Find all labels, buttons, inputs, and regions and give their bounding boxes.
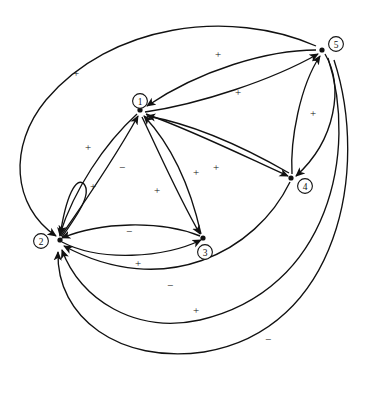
edge-sign: + <box>213 161 219 173</box>
edge-sign: − <box>265 333 271 345</box>
edge-signs-group: + + + + + − + + + + − + − + − <box>73 48 316 345</box>
edge-sign: − <box>126 225 132 237</box>
edge-sign: + <box>215 48 221 60</box>
edge-2-3 <box>62 240 201 255</box>
edge-1-5 <box>145 54 318 112</box>
node-junction-5 <box>319 47 324 52</box>
edge-sign: + <box>193 166 199 178</box>
node-label-2[interactable]: 2 <box>34 234 49 249</box>
edge-sign: + <box>73 67 79 79</box>
edge-2-1 <box>61 116 138 236</box>
edge-sign: + <box>193 304 199 316</box>
edge-2-self-loop <box>60 182 86 237</box>
edge-1-2 <box>60 114 137 234</box>
edge-4-2-lower <box>64 182 290 269</box>
node-junction-4 <box>288 175 293 180</box>
node-label-3[interactable]: 3 <box>198 245 213 260</box>
edge-5-1 <box>147 50 316 106</box>
edge-sign: + <box>135 257 141 269</box>
node-label-2-text: 2 <box>39 237 44 247</box>
signed-digraph: 1 2 3 4 5 + + + + + − <box>0 0 368 406</box>
edge-sign: − <box>167 279 173 291</box>
edge-sign: + <box>85 141 91 153</box>
node-label-5[interactable]: 5 <box>329 37 344 52</box>
node-label-1[interactable]: 1 <box>133 94 148 109</box>
node-label-3-text: 3 <box>203 248 208 258</box>
node-labels-group: 1 2 3 4 5 <box>34 37 344 260</box>
node-dots-group <box>57 47 324 242</box>
node-junction-3 <box>200 235 205 240</box>
node-label-1-text: 1 <box>138 97 143 107</box>
edge-sign: + <box>310 107 316 119</box>
node-label-4-text: 4 <box>303 182 308 192</box>
edge-5-2-bottom-outer <box>58 60 348 354</box>
node-junction-2 <box>57 237 62 242</box>
figure-page: 1 2 3 4 5 + + + + + − <box>0 0 368 406</box>
node-label-5-text: 5 <box>334 40 339 50</box>
node-label-4[interactable]: 4 <box>298 179 313 194</box>
edge-sign: + <box>235 86 241 98</box>
edge-sign: + <box>154 184 160 196</box>
edge-5-2-bottom-mid <box>62 58 339 323</box>
edge-sign: + <box>90 180 96 192</box>
edge-1-3 <box>142 117 200 234</box>
edge-5-2-outer-left <box>20 26 316 236</box>
edge-sign: − <box>119 161 125 173</box>
